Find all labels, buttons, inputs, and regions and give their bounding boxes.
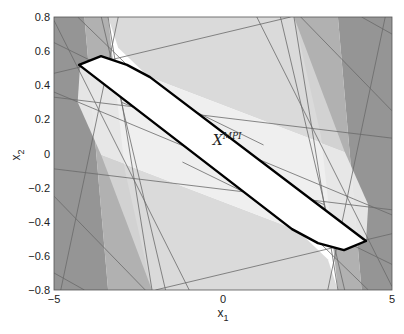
y-axis-ticks: 0.80.60.40.20−0.2−0.4−0.6−0.8 [28, 11, 50, 296]
y-axis-label: x2 [9, 149, 26, 160]
y-tick-label: −0.4 [28, 216, 50, 228]
y-tick-label: 0 [44, 148, 50, 160]
y-tick-label: 0.6 [35, 45, 50, 57]
y-tick-label: 0.2 [35, 113, 50, 125]
x-tick-label: 0 [220, 293, 226, 305]
x-tick-label: 5 [389, 293, 395, 305]
y-tick-label: 0.8 [35, 11, 50, 23]
y-tick-label: −0.2 [28, 182, 50, 194]
y-tick-label: −0.6 [28, 250, 50, 262]
y-tick-label: −0.8 [28, 284, 50, 296]
x-axis-label: x1 [217, 306, 228, 323]
mpi-set-plot: −505 0.80.60.40.20−0.2−0.4−0.6−0.8 x1 x2… [0, 0, 404, 334]
y-tick-label: 0.4 [35, 79, 50, 91]
x-axis-ticks: −505 [48, 293, 395, 305]
